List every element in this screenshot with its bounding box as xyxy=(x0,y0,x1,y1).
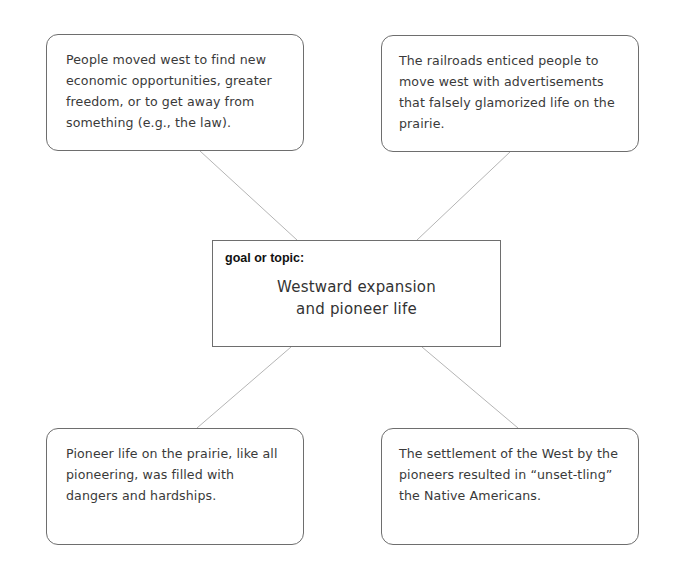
connector-top-right xyxy=(417,151,511,240)
detail-text: The railroads enticed people to move wes… xyxy=(399,53,615,131)
connector-bottom-right xyxy=(422,347,518,428)
detail-box-top-right: The railroads enticed people to move wes… xyxy=(381,35,639,152)
topic-line-2: and pioneer life xyxy=(213,298,500,320)
topic-line-1: Westward expansion xyxy=(213,276,500,298)
topic-text: Westward expansion and pioneer life xyxy=(213,276,500,320)
detail-box-bottom-left: Pioneer life on the prairie, like all pi… xyxy=(46,428,304,545)
topic-label: goal or topic: xyxy=(225,251,304,265)
central-topic-box: goal or topic: Westward expansion and pi… xyxy=(212,240,501,347)
connector-bottom-left xyxy=(197,347,291,428)
detail-text: The settlement of the West by the pionee… xyxy=(399,446,618,503)
detail-text: Pioneer life on the prairie, like all pi… xyxy=(66,446,278,503)
connector-top-left xyxy=(200,151,297,240)
detail-box-top-left: People moved west to find new economic o… xyxy=(46,34,304,151)
detail-text: People moved west to find new economic o… xyxy=(66,52,272,130)
detail-box-bottom-right: The settlement of the West by the pionee… xyxy=(381,428,639,545)
